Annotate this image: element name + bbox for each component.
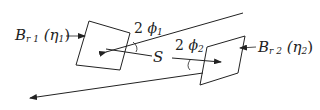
label-angle2-factor: 2 <box>175 37 184 53</box>
label-angle1-phi: ϕ <box>147 20 157 36</box>
diagram-canvas: Br 1 (η1) 2 ϕ1 S 2 ϕ2 Br 2 (η2) <box>0 0 320 110</box>
angle-arc-2 <box>188 60 190 70</box>
label-br2-subscript: r 2 <box>269 46 282 56</box>
ray-lower <box>30 73 203 98</box>
label-br2-symbol: B <box>258 38 269 56</box>
label-br1-subscript: r 1 <box>26 34 39 44</box>
ray-s-right <box>172 58 221 62</box>
label-br1-eta: (η <box>44 26 59 44</box>
ray-s-left <box>106 49 152 56</box>
label-br1-close: ) <box>64 26 70 44</box>
label-angle2-phi: ϕ <box>188 37 198 53</box>
label-br1-symbol: B <box>15 26 26 44</box>
label-br2: Br 2 (η2) <box>258 40 313 56</box>
label-br1: Br 1 (η1) <box>15 28 70 44</box>
label-br2-eta: (η <box>287 38 302 56</box>
surface-br1 <box>76 21 130 70</box>
label-angle2: 2 ϕ2 <box>175 38 204 54</box>
label-angle1: 2 ϕ1 <box>134 21 163 37</box>
label-br2-close: ) <box>307 38 313 56</box>
label-angle1-subscript: 1 <box>157 27 163 37</box>
label-angle2-subscript: 2 <box>198 44 204 54</box>
label-angle1-factor: 2 <box>134 20 143 36</box>
label-separation: S <box>153 50 163 65</box>
